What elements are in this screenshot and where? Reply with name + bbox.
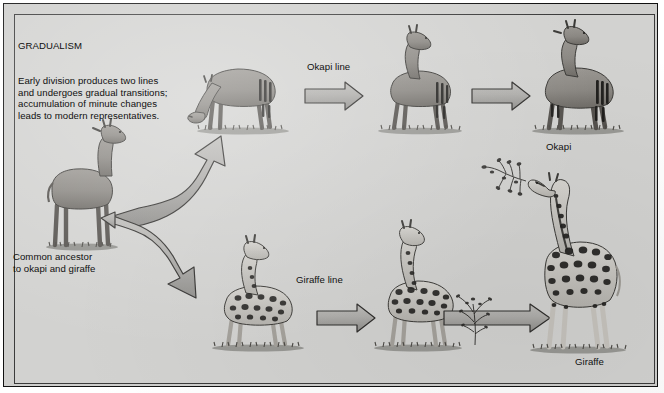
figure-description: Early division produces two lines and un… [18, 75, 167, 121]
label-okapi: Okapi [546, 141, 571, 153]
right-arrow-icon-giraffe-2 [444, 304, 550, 332]
right-arrow-icon-giraffe-1 [317, 304, 375, 332]
label-giraffe-line: Giraffe line [296, 274, 343, 286]
figure-title-block: GRADUALISM Early division produces two l… [18, 17, 167, 145]
giraffe-stage-2 [374, 220, 462, 351]
label-okapi-line: Okapi line [307, 61, 350, 73]
leafy-branch-icon [481, 157, 526, 196]
okapi-stage-3-modern [532, 20, 624, 134]
right-arrow-icon-okapi-1 [305, 82, 363, 110]
okapi-stage-1 [188, 69, 289, 134]
forked-arrow-icon [101, 136, 225, 298]
label-common-ancestor: Common ancestor to okapi and giraffe [13, 251, 95, 274]
giraffe-stage-3-modern [528, 173, 626, 353]
giraffe-stage-1 [212, 235, 304, 351]
page-title: GRADUALISM [18, 40, 167, 52]
label-giraffe: Giraffe [575, 356, 604, 368]
gradualism-figure: GRADUALISM Early division produces two l… [0, 0, 664, 393]
right-arrow-icon-okapi-2 [472, 82, 530, 110]
okapi-stage-2 [378, 25, 462, 134]
